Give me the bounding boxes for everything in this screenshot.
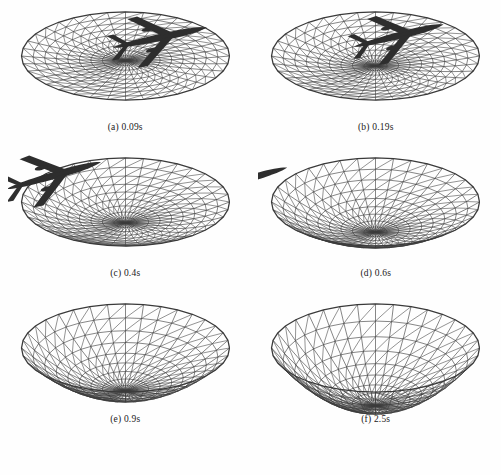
figure-panel-f: (f) 2.5s [251,292,501,438]
mesh-reflector-art-f [258,292,493,416]
panel-caption-c: (c) 0.4s [110,269,140,279]
mesh-reflector-art-a [8,0,243,124]
mesh-reflector-art-c [8,146,243,270]
mesh-reflector-art-d [258,146,493,270]
figure-panel-grid: (a) 0.09s (b) 0.19s (c) 0.4s (d) 0.6s (e… [0,0,501,475]
mesh-reflector-art-e [8,292,243,416]
figure-panel-c: (c) 0.4s [0,146,251,292]
figure-panel-d: (d) 0.6s [251,146,501,292]
panel-caption-e: (e) 0.9s [110,415,140,425]
panel-caption-b: (b) 0.19s [358,123,394,133]
figure-panel-e: (e) 0.9s [0,292,251,438]
panel-caption-f: (f) 2.5s [361,415,390,425]
panel-caption-d: (d) 0.6s [360,269,391,279]
figure-title [0,466,501,475]
panel-caption-a: (a) 0.09s [108,123,143,133]
figure-panel-a: (a) 0.09s [0,0,251,146]
mesh-reflector-art-b [258,0,493,124]
figure-panel-b: (b) 0.19s [251,0,501,146]
